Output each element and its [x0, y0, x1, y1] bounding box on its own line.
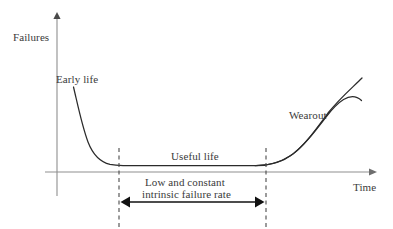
x-axis-label: Time [353, 181, 376, 193]
failure-rate-curve-wearout-tail [255, 78, 362, 166]
annotation-bracket-line2: intrinsic failure rate [142, 188, 231, 200]
y-axis [53, 12, 60, 196]
annotation-early-life: Early life [56, 73, 98, 85]
bathtub-curve-figure: Failures Early life Wearout Useful life … [0, 0, 393, 229]
annotation-useful-life: Useful life [171, 150, 219, 162]
annotation-wearout: Wearout [289, 109, 327, 121]
y-axis-label: Failures [13, 31, 49, 43]
annotation-bracket-line1: Low and constant [145, 176, 225, 188]
x-axis [45, 168, 377, 175]
